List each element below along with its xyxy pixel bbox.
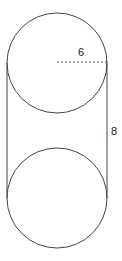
top-circle [7,13,107,113]
cylinder-diagram: 6 8 [0,0,122,261]
height-label: 8 [111,125,117,137]
bottom-circle [7,148,107,248]
radius-label: 6 [78,46,84,58]
